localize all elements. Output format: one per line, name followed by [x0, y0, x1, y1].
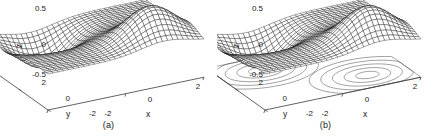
x-axis-label: x — [146, 109, 151, 119]
panel-a: z 0.5 0 -0.5 2 0 -2 y -2 0 2 x (a) — [0, 0, 217, 139]
y-tick-0: 2 — [42, 78, 47, 87]
y-tick-1: 0 — [283, 94, 288, 103]
x-tick-1: 0 — [148, 95, 153, 104]
mesh-surface-b — [217, 0, 421, 74]
x-tick-2: 2 — [196, 82, 201, 91]
plot-a-svg: z 0.5 0 -0.5 2 0 -2 y -2 0 2 x — [0, 0, 217, 139]
figure-container: z 0.5 0 -0.5 2 0 -2 y -2 0 2 x (a) z 0.5… — [0, 0, 434, 139]
y-tick-1: 0 — [66, 94, 71, 103]
y-tick-2: -2 — [89, 109, 97, 118]
panel-a-caption: (a) — [0, 120, 217, 130]
y-axis-label: y — [283, 109, 288, 119]
x-tick-2: 2 — [413, 82, 418, 91]
x-tick-0: -2 — [104, 109, 112, 118]
mesh-surface-a — [0, 0, 204, 74]
z-tick-0: 0.5 — [35, 4, 47, 13]
panel-b-caption: (b) — [217, 120, 434, 130]
x-axis-label: x — [363, 109, 368, 119]
z-axis-label: z — [14, 44, 24, 48]
x-tick-0: -2 — [321, 109, 329, 118]
z-tick-1: 0 — [259, 40, 264, 49]
x-tick-1: 0 — [365, 95, 370, 104]
z-tick-1: 0 — [42, 40, 47, 49]
plot-b-svg: z 0.5 0 -0.5 2 0 -2 y -2 0 2 x — [217, 0, 434, 139]
y-tick-2: -2 — [306, 109, 314, 118]
y-axis-label: y — [66, 109, 71, 119]
z-tick-0: 0.5 — [252, 4, 264, 13]
y-tick-0: 2 — [259, 78, 264, 87]
z-axis-label: z — [231, 44, 241, 48]
panel-b: z 0.5 0 -0.5 2 0 -2 y -2 0 2 x (b) — [217, 0, 434, 139]
